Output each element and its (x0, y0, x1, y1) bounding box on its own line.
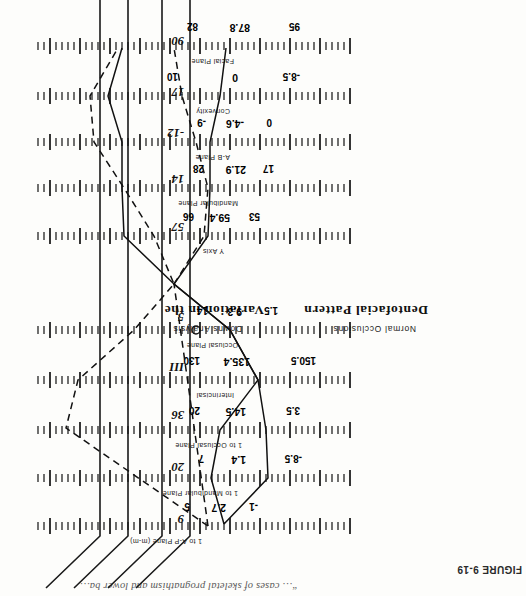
case-polygon-dashed-upper (174, 284, 208, 526)
case-polygon-dashed-lower (174, 48, 208, 284)
occlusal-plane-marker (192, 326, 200, 334)
polygon-overlay (0, 0, 526, 596)
mean-polygon-solid (174, 48, 258, 524)
mean-polygon-solid-2 (108, 48, 268, 524)
figure-page: FIGURE 9-19 “… cases of skeletal prognat… (0, 0, 526, 596)
case-polygon-dashed (66, 48, 208, 526)
